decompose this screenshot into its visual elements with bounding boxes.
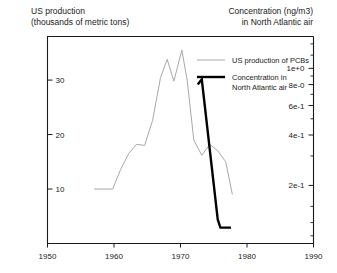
x-tick-label: 1950	[39, 252, 57, 261]
y2-tick-label: 1e+0	[286, 64, 305, 73]
y-axis-left-ticks: 102030	[48, 76, 65, 194]
x-tick-label: 1980	[238, 252, 256, 261]
x-tick-label: 1960	[105, 252, 123, 261]
plot-frame	[48, 37, 314, 244]
legend-label-2: North Atlantic air	[232, 83, 288, 92]
chart-figure: US production (thousands of metric tons)…	[0, 0, 337, 273]
y2-tick-label: 8e-0	[288, 81, 305, 90]
x-axis-ticks: 19501960197019801990	[39, 244, 323, 261]
y-tick-label: 10	[56, 185, 65, 194]
y2-tick-label: 6e-1	[288, 102, 305, 111]
plot-area: 19501960197019801990 102030 2e-14e-16e-1…	[0, 0, 337, 273]
legend-label-2: Concentration in	[232, 73, 287, 82]
x-tick-label: 1990	[305, 252, 323, 261]
y2-tick-label: 2e-1	[288, 181, 305, 190]
x-tick-label: 1970	[172, 252, 190, 261]
y-tick-label: 20	[56, 131, 65, 140]
y2-tick-label: 4e-1	[288, 131, 305, 140]
y-tick-label: 30	[56, 76, 65, 85]
legend-label-1: US production of PCBs	[232, 56, 309, 65]
y-axis-right-ticks: 2e-14e-16e-18e-01e+0	[286, 44, 313, 236]
